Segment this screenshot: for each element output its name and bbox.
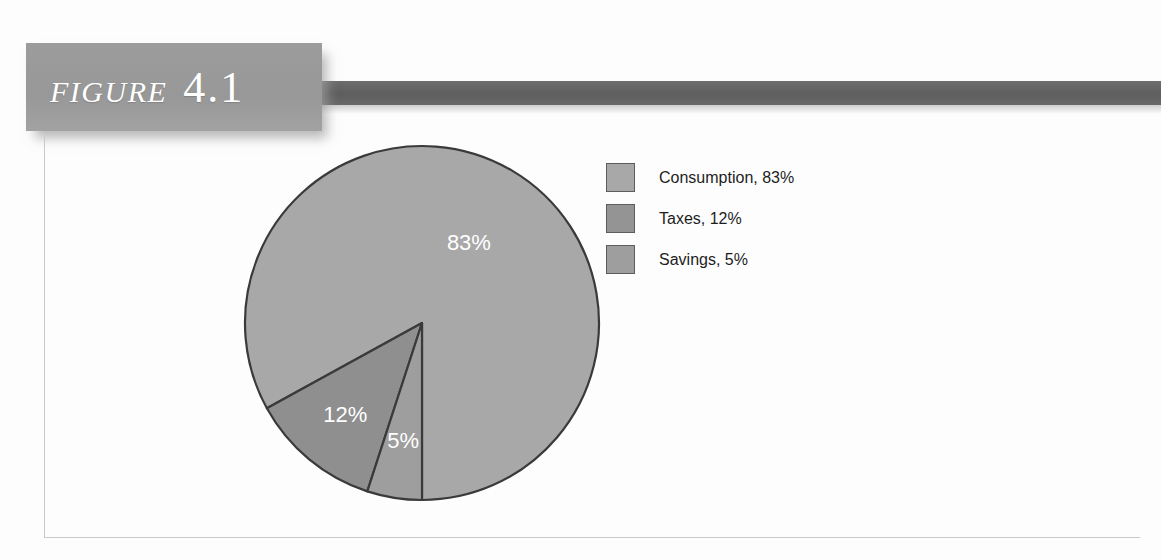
legend-label-taxes: Taxes, 12% <box>659 210 742 228</box>
chart-legend: Consumption, 83% Taxes, 12% Savings, 5% <box>606 157 936 280</box>
figure-number-label: 4.1 <box>183 62 244 113</box>
chart-frame: 83%12%5% Consumption, 83% Taxes, 12% Sav… <box>44 136 1140 538</box>
pie-data-label-consumption: 83% <box>447 230 491 255</box>
figure-word-label: FIGURE <box>50 75 167 109</box>
figure-number-tag-inner: FIGURE 4.1 <box>26 62 322 113</box>
pie-graphic-wrapper: 83%12%5% <box>242 143 602 503</box>
figure-header: FIGURE 4.1 <box>0 0 1161 140</box>
legend-swatch-savings <box>606 245 635 274</box>
legend-swatch-consumption <box>606 163 635 192</box>
pie-chart: 83%12%5% Consumption, 83% Taxes, 12% Sav… <box>45 136 1141 538</box>
figure-number-tag: FIGURE 4.1 <box>26 43 322 131</box>
pie-data-label-taxes: 12% <box>323 402 367 427</box>
figure-header-rule <box>310 81 1161 105</box>
legend-label-consumption: Consumption, 83% <box>659 169 794 187</box>
legend-item-taxes[interactable]: Taxes, 12% <box>606 198 936 239</box>
legend-item-savings[interactable]: Savings, 5% <box>606 239 936 280</box>
pie-data-label-savings: 5% <box>387 428 419 453</box>
legend-swatch-taxes <box>606 204 635 233</box>
pie-slice-group <box>245 146 599 500</box>
legend-label-savings: Savings, 5% <box>659 251 748 269</box>
legend-item-consumption[interactable]: Consumption, 83% <box>606 157 936 198</box>
pie-svg: 83%12%5% <box>242 143 602 503</box>
